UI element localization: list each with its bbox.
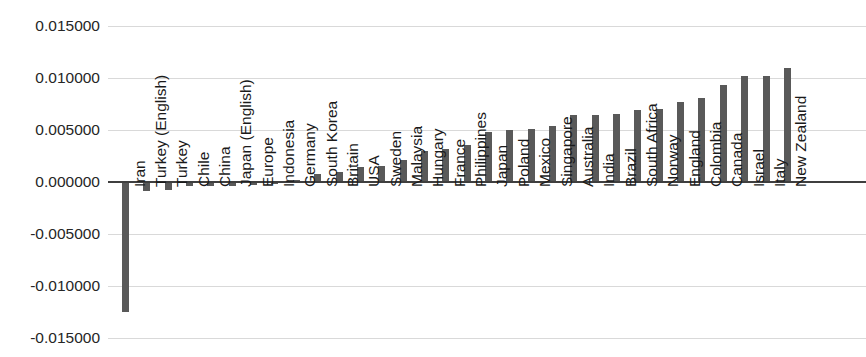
y-tick-label: 0.015000 bbox=[35, 17, 100, 35]
category-label: Japan (English) bbox=[238, 79, 254, 187]
category-label: India bbox=[601, 153, 617, 187]
category-label: Italy bbox=[772, 159, 788, 187]
category-label: Colombia bbox=[708, 122, 724, 187]
category-label: Australia bbox=[580, 127, 596, 187]
category-label: Canada bbox=[729, 133, 745, 187]
category-label: Norway bbox=[665, 134, 681, 187]
category-label: Hungary bbox=[430, 128, 446, 187]
category-label: France bbox=[452, 139, 468, 187]
y-tick-label: -0.015000 bbox=[30, 329, 100, 347]
category-label: South Africa bbox=[644, 103, 660, 187]
y-tick-label: 0.005000 bbox=[35, 121, 100, 139]
category-label: Japan bbox=[494, 145, 510, 187]
category-label: Indonesia bbox=[281, 120, 297, 187]
category-label: New Zealand bbox=[793, 96, 809, 187]
bar bbox=[122, 182, 129, 312]
category-label: Brazil bbox=[623, 148, 639, 187]
y-tick-label: 0.010000 bbox=[35, 69, 100, 87]
y-axis-tick-labels: 0.0150000.0100000.0050000.000000-0.00500… bbox=[0, 0, 106, 357]
bar-chart: 0.0150000.0100000.0050000.000000-0.00500… bbox=[0, 0, 866, 357]
category-label: Malaysia bbox=[409, 126, 425, 187]
category-label: Europe bbox=[260, 137, 276, 187]
y-tick-label: -0.005000 bbox=[30, 225, 100, 243]
category-label: Sweden bbox=[388, 131, 404, 187]
category-label: England bbox=[687, 130, 703, 187]
category-label: China bbox=[217, 147, 233, 188]
category-label: Britain bbox=[345, 143, 361, 187]
category-label: Mexico bbox=[537, 138, 553, 187]
category-label: Turkey bbox=[174, 140, 190, 187]
category-label: Poland bbox=[516, 139, 532, 187]
category-label: Turkey (English) bbox=[153, 75, 169, 187]
category-label: Iran bbox=[132, 160, 148, 187]
category-label: Philippines bbox=[473, 112, 489, 187]
category-label: Germany bbox=[302, 123, 318, 187]
category-label: Singapore bbox=[559, 116, 575, 187]
category-label: USA bbox=[366, 155, 382, 187]
category-label: Chile bbox=[196, 152, 212, 187]
y-tick-label: -0.010000 bbox=[30, 277, 100, 295]
category-label: Israel bbox=[751, 149, 767, 187]
y-tick-label: 0.000000 bbox=[35, 173, 100, 191]
category-label: South Korea bbox=[324, 101, 340, 187]
plot-area: IranTurkey (English)TurkeyChileChinaJapa… bbox=[108, 0, 866, 357]
